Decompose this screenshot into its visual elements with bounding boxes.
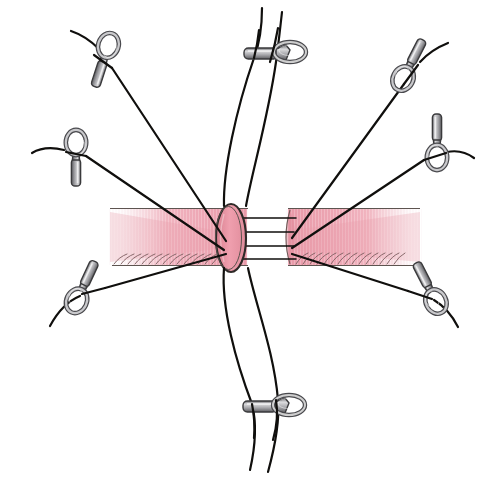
anastomosis-diagram: [0, 0, 490, 478]
cut-end-lumen: [216, 204, 247, 272]
surgical-illustration-figure: Microvascular end-to-end anastomosis wit…: [0, 0, 490, 478]
